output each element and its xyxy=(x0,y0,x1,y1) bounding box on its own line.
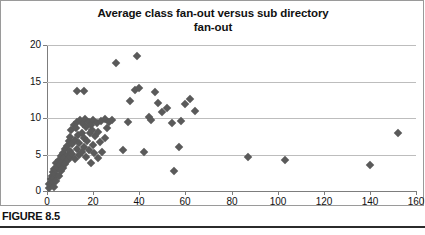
y-axis-tick xyxy=(43,155,47,156)
y-axis-tick-label: 20 xyxy=(30,40,41,50)
y-axis-tick xyxy=(43,45,47,46)
chart-title: Average class fan-out versus sub directo… xyxy=(1,6,425,34)
plot-area: 05101520020406080100120140160 xyxy=(47,45,416,191)
gridline-y xyxy=(47,82,416,83)
y-axis-tick-label: 15 xyxy=(30,77,41,87)
y-axis-tick xyxy=(43,82,47,83)
x-axis-tick-label: 80 xyxy=(226,197,237,207)
x-axis-tick xyxy=(232,191,233,195)
figure-caption: FIGURE 8.5 xyxy=(2,210,60,222)
x-axis-tick-label: 120 xyxy=(316,197,333,207)
x-axis-tick xyxy=(93,191,94,195)
x-axis-tick xyxy=(278,191,279,195)
y-axis-tick-label: 0 xyxy=(35,186,41,196)
x-axis-tick xyxy=(370,191,371,195)
x-axis-tick xyxy=(185,191,186,195)
caption-rule xyxy=(0,226,425,228)
gridline-y xyxy=(47,45,416,46)
y-axis-tick xyxy=(43,118,47,119)
y-axis-tick-label: 10 xyxy=(30,113,41,123)
chart-title-line-1: Average class fan-out versus sub directo… xyxy=(1,6,425,20)
x-axis-tick xyxy=(416,191,417,195)
y-axis-tick-label: 5 xyxy=(35,150,41,160)
x-axis-tick-label: 60 xyxy=(179,197,190,207)
x-axis-tick-label: 40 xyxy=(133,197,144,207)
chart-title-line-2: fan-out xyxy=(1,20,425,34)
x-axis-tick-label: 0 xyxy=(44,197,50,207)
figure-8-5: Average class fan-out versus sub directo… xyxy=(0,0,425,235)
x-axis-tick-label: 140 xyxy=(362,197,379,207)
chart-frame: Average class fan-out versus sub directo… xyxy=(0,0,424,206)
x-axis-tick-label: 20 xyxy=(87,197,98,207)
x-axis-tick-label: 160 xyxy=(408,197,425,207)
x-axis-tick xyxy=(139,191,140,195)
x-axis-tick xyxy=(324,191,325,195)
x-axis-tick-label: 100 xyxy=(270,197,287,207)
